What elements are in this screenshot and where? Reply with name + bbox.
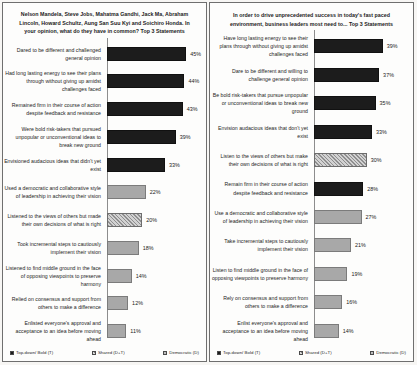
bar-track: 45% xyxy=(105,47,206,61)
bar xyxy=(107,130,176,144)
bar-value-label: 28% xyxy=(367,186,378,192)
bar-track: 11% xyxy=(105,324,206,338)
bar xyxy=(107,269,132,283)
legend-item: Shared (D+T) xyxy=(92,350,125,355)
bar-row: Envision audacious ideas that don't yet … xyxy=(210,119,413,144)
bar-row: Were bold risk-takers that pursued unpop… xyxy=(3,124,206,149)
bar-category-label: Take incremental steps to cautiously imp… xyxy=(210,237,312,253)
panel-title-left: Nelson Mandela, Steve Jobs, Mahatma Gand… xyxy=(3,3,206,36)
bar-value-label: 35% xyxy=(380,100,391,106)
legend-swatch-icon xyxy=(299,351,303,355)
bar-row: Took incremental steps to cautiously imp… xyxy=(3,235,206,260)
bar-value-label: 43% xyxy=(187,106,198,112)
bar-row: Remain firm in their course of action de… xyxy=(210,176,413,201)
bar-track: 19% xyxy=(312,267,413,281)
bar-category-label: Had long lasting energy to see their pla… xyxy=(3,69,105,93)
bar xyxy=(107,324,126,338)
bar-row: Dare to be different and willing to chal… xyxy=(210,62,413,87)
bar-category-label: Rely on consensus and support from other… xyxy=(210,294,312,310)
legend-swatch-icon xyxy=(92,351,96,355)
bar-category-label: Remained firm in their course of action … xyxy=(3,101,105,117)
bar-row: Listened to find middle ground in the fa… xyxy=(3,263,206,288)
dual-bar-chart-figure: Nelson Mandela, Steve Jobs, Mahatma Gand… xyxy=(0,0,417,365)
bar xyxy=(107,74,184,88)
bar xyxy=(107,296,128,310)
bar-track: 27% xyxy=(312,210,413,224)
bar xyxy=(107,213,142,227)
legend-label: Democratic (D) xyxy=(169,350,199,355)
bar-category-label: Use a democratic and collaborative style… xyxy=(210,209,312,225)
legend-swatch-icon xyxy=(217,351,221,355)
bar-track: 14% xyxy=(312,324,413,338)
panel-title-right: In order to drive unprecedented success … xyxy=(210,3,413,28)
bar-value-label: 33% xyxy=(169,162,180,168)
bar-row: Use a democratic and collaborative style… xyxy=(210,204,413,229)
bar-value-label: 19% xyxy=(351,271,362,277)
bar xyxy=(107,47,186,61)
bar-category-label: Took incremental steps to cautiously imp… xyxy=(3,240,105,256)
bar-category-label: Listen to the views of others but make t… xyxy=(210,152,312,168)
bar-row: Enlist everyone's approval and acceptanc… xyxy=(210,318,413,343)
bar-row: Listen to the views of others but make t… xyxy=(210,147,413,172)
bar-category-label: Have long lasting energy to see their pl… xyxy=(210,34,312,58)
legend-label: Shared (D+T) xyxy=(305,350,332,355)
bar-row: Be bold risk-takers that pursue unpopula… xyxy=(210,91,413,116)
bar-value-label: 12% xyxy=(132,300,143,306)
bar-value-label: 18% xyxy=(143,245,154,251)
bar-value-label: 20% xyxy=(146,217,157,223)
legend-item: Shared (D+T) xyxy=(299,350,332,355)
bar-track: 14% xyxy=(105,269,206,283)
bar-rows-left: Dared to be different and challenged gen… xyxy=(3,40,206,347)
bar-category-label: Listen to find middle ground in the face… xyxy=(210,266,312,282)
bar-value-label: 44% xyxy=(188,78,199,84)
bar xyxy=(314,96,376,110)
bar xyxy=(314,125,372,139)
bar-row: Enlisted everyone's approval and accepta… xyxy=(3,318,206,343)
bar xyxy=(314,267,347,281)
bar-category-label: Listened to the views of others but made… xyxy=(3,212,105,228)
bar-row: Have long lasting energy to see their pl… xyxy=(210,34,413,59)
bar-row: Dared to be different and challenged gen… xyxy=(3,41,206,66)
bar-track: 35% xyxy=(312,96,413,110)
bar-row: Rely on consensus and support from other… xyxy=(210,290,413,315)
bar xyxy=(314,238,351,252)
legend-item: Democratic (D) xyxy=(370,350,406,355)
legend-item: Democratic (D) xyxy=(163,350,199,355)
bar-category-label: Envision audacious ideas that don't yet … xyxy=(210,124,312,140)
bar-category-label: Relied on consensus and support from oth… xyxy=(3,295,105,311)
bar-track: 18% xyxy=(105,241,206,255)
bar-track: 39% xyxy=(312,39,413,53)
bar-row: Relied on consensus and support from oth… xyxy=(3,291,206,316)
bar xyxy=(314,182,363,196)
bar-row: Listen to find middle ground in the face… xyxy=(210,261,413,286)
bar-track: 37% xyxy=(312,68,413,82)
bar xyxy=(107,158,165,172)
bar-category-label: Dare to be different and willing to chal… xyxy=(210,67,312,83)
legend-swatch-icon xyxy=(370,351,374,355)
bar-category-label: Were bold risk-takers that pursued unpop… xyxy=(3,125,105,149)
bar-category-label: Envisioned audacious ideas that didn't y… xyxy=(3,157,105,173)
bar-value-label: 39% xyxy=(180,134,191,140)
bar-track: 33% xyxy=(312,125,413,139)
legend-label: Shared (D+T) xyxy=(98,350,125,355)
bar-category-label: Dared to be different and challenged gen… xyxy=(3,46,105,62)
bar-track: 39% xyxy=(105,130,206,144)
bar-category-label: Enlisted everyone's approval and accepta… xyxy=(3,319,105,343)
bar-value-label: 37% xyxy=(383,72,394,78)
bar-rows-right: Have long lasting energy to see their pl… xyxy=(210,32,413,347)
bar-category-label: Be bold risk-takers that pursue unpopula… xyxy=(210,91,312,115)
bar-value-label: 14% xyxy=(343,328,354,334)
bar-row: Used a democratic and collaborative styl… xyxy=(3,180,206,205)
legend-swatch-icon xyxy=(163,351,167,355)
legend-label: Top-down/ Bold (T) xyxy=(223,350,260,355)
legend-item: Top-down/ Bold (T) xyxy=(10,350,53,355)
bar xyxy=(314,210,362,224)
bar-category-label: Remain firm in their course of action de… xyxy=(210,180,312,196)
bar-category-label: Listened to find middle ground in the fa… xyxy=(3,264,105,288)
bar xyxy=(314,68,379,82)
bar-row: Listened to the views of others but made… xyxy=(3,207,206,232)
chart-panel-left: Nelson Mandela, Steve Jobs, Mahatma Gand… xyxy=(2,2,207,362)
bar-row: Remained firm in their course of action … xyxy=(3,96,206,121)
bar-row: Had long lasting energy to see their pla… xyxy=(3,69,206,94)
bar xyxy=(314,295,342,309)
